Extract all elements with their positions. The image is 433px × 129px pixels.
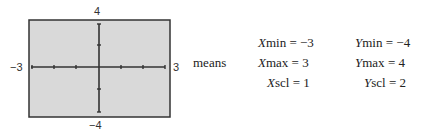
xscl-setting: Xscl = 1	[267, 75, 310, 91]
ymin-setting: Ymin = −4	[355, 35, 410, 51]
x-max-label: 3	[173, 62, 179, 73]
means-label: means	[193, 55, 226, 71]
xmin-setting: Xmin = −3	[258, 35, 314, 51]
yscl-setting: Yscl = 2	[364, 75, 406, 91]
y-min-label: −4	[89, 120, 102, 129]
y-max-label: 4	[94, 6, 100, 17]
xmax-setting: Xmax = 3	[258, 55, 309, 71]
ymax-setting: Ymax = 4	[355, 55, 405, 71]
x-min-label: −3	[10, 62, 23, 73]
